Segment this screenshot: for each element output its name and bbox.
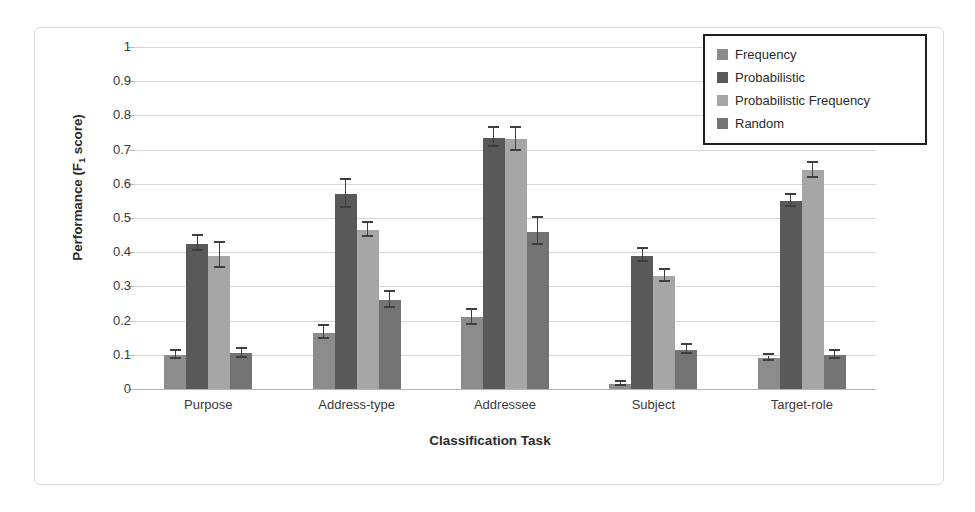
error-bar-cap-top — [829, 349, 840, 351]
error-bar-cap-bottom — [637, 260, 648, 262]
error-bar-cap-bottom — [807, 176, 818, 178]
y-tick-label: 0.1 — [71, 347, 131, 362]
error-bar — [345, 180, 346, 209]
bar[interactable] — [824, 355, 846, 389]
y-tick-label: 0.3 — [71, 278, 131, 293]
error-bar-cap-top — [659, 268, 670, 270]
bar[interactable] — [675, 350, 697, 389]
error-bar-cap-bottom — [236, 356, 247, 358]
error-bar-cap-top — [192, 234, 203, 236]
bar[interactable] — [505, 139, 527, 389]
y-tick-label: 0.7 — [71, 142, 131, 157]
bar-group — [431, 47, 579, 389]
x-tick-label: Addressee — [420, 397, 590, 412]
bar[interactable] — [208, 256, 230, 389]
error-bar-cap-top — [318, 324, 329, 326]
y-tick-label: 0.8 — [71, 107, 131, 122]
error-bar-cap-bottom — [615, 384, 626, 386]
error-bar-cap-top — [488, 126, 499, 128]
error-bar-cap-bottom — [192, 249, 203, 251]
bar[interactable] — [631, 256, 653, 389]
x-axis-line — [134, 389, 876, 390]
legend-item[interactable]: Probabilistic Frequency — [717, 89, 915, 112]
error-bar-cap-bottom — [384, 306, 395, 308]
error-bar-cap-top — [785, 193, 796, 195]
chart-legend: FrequencyProbabilisticProbabilistic Freq… — [703, 34, 927, 145]
error-bar-cap-bottom — [318, 337, 329, 339]
error-bar-cap-top — [362, 221, 373, 223]
error-bar-cap-top — [532, 216, 543, 218]
legend-label: Probabilistic — [735, 70, 805, 85]
y-tick-label: 0 — [71, 381, 131, 396]
error-bar-cap-bottom — [340, 206, 351, 208]
error-bar-cap-top — [763, 353, 774, 355]
x-axis-title: Classification Task — [35, 433, 945, 448]
legend-swatch-icon — [717, 72, 728, 83]
error-bar-cap-bottom — [681, 352, 692, 354]
bar[interactable] — [230, 353, 252, 389]
error-bar-cap-bottom — [214, 266, 225, 268]
legend-label: Frequency — [735, 47, 796, 62]
bar[interactable] — [164, 355, 186, 389]
error-bar-cap-top — [681, 343, 692, 345]
legend-item[interactable]: Frequency — [717, 43, 915, 66]
bar-group — [134, 47, 282, 389]
bar[interactable] — [313, 333, 335, 389]
legend-label: Probabilistic Frequency — [735, 93, 870, 108]
error-bar-cap-bottom — [785, 205, 796, 207]
legend-label: Random — [735, 116, 784, 131]
error-bar-cap-bottom — [659, 280, 670, 282]
bar[interactable] — [357, 230, 379, 389]
bar-group — [282, 47, 430, 389]
error-bar-cap-bottom — [488, 145, 499, 147]
y-tick-label: 0.9 — [71, 73, 131, 88]
legend-item[interactable]: Random — [717, 112, 915, 135]
y-tick-label: 0.6 — [71, 176, 131, 191]
bar[interactable] — [461, 317, 483, 389]
bar[interactable] — [653, 276, 675, 389]
error-bar-cap-bottom — [170, 357, 181, 359]
error-bar-cap-top — [384, 290, 395, 292]
y-tick-label: 0.2 — [71, 313, 131, 328]
chart-figure: Performance (F1 score) Classification Ta… — [34, 27, 944, 485]
legend-swatch-icon — [717, 49, 728, 60]
legend-item[interactable]: Probabilistic — [717, 66, 915, 89]
legend-swatch-icon — [717, 95, 728, 106]
x-tick-label: Target-role — [717, 397, 887, 412]
error-bar-cap-top — [510, 126, 521, 128]
bar[interactable] — [758, 358, 780, 389]
error-bar-cap-bottom — [510, 149, 521, 151]
error-bar-cap-bottom — [532, 243, 543, 245]
x-tick-label: Address-type — [272, 397, 442, 412]
y-tick-label: 1 — [71, 39, 131, 54]
error-bar — [515, 128, 516, 151]
error-bar-cap-bottom — [763, 359, 774, 361]
error-bar-cap-top — [236, 347, 247, 349]
y-axis-title-subscript: 1 — [76, 158, 87, 163]
y-tick-label: 0.5 — [71, 210, 131, 225]
bar[interactable] — [379, 300, 401, 389]
x-tick-label: Purpose — [123, 397, 293, 412]
bar[interactable] — [335, 194, 357, 389]
error-bar-cap-top — [637, 247, 648, 249]
error-bar-cap-bottom — [829, 357, 840, 359]
error-bar-cap-top — [340, 178, 351, 180]
bar[interactable] — [527, 232, 549, 389]
bar[interactable] — [483, 138, 505, 389]
bar[interactable] — [802, 170, 824, 389]
error-bar-cap-bottom — [466, 323, 477, 325]
y-tick-label: 0.4 — [71, 244, 131, 259]
error-bar-cap-top — [466, 308, 477, 310]
bar[interactable] — [780, 201, 802, 389]
legend-swatch-icon — [717, 118, 728, 129]
error-bar-cap-top — [170, 349, 181, 351]
error-bar-cap-bottom — [362, 235, 373, 237]
error-bar-cap-top — [807, 161, 818, 163]
error-bar — [219, 243, 220, 268]
error-bar-cap-top — [615, 380, 626, 382]
x-tick-label: Subject — [568, 397, 738, 412]
bar[interactable] — [609, 384, 631, 389]
error-bar — [537, 218, 538, 245]
error-bar-cap-top — [214, 241, 225, 243]
bar[interactable] — [186, 244, 208, 389]
